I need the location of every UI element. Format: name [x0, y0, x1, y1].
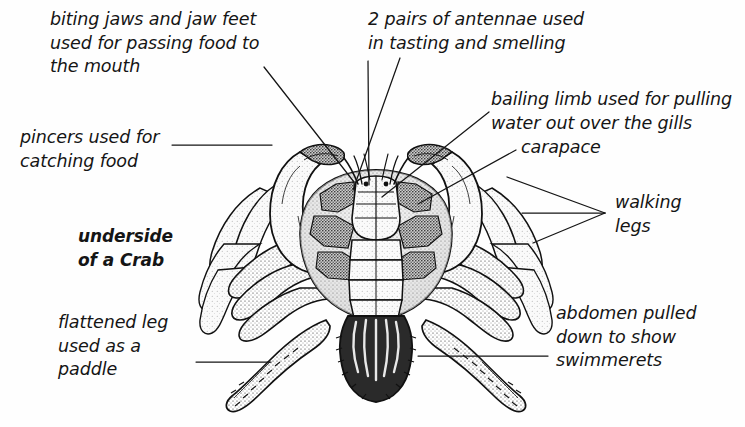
- label-carapace: carapace: [521, 136, 661, 160]
- label-antennae: 2 pairs of antennae used in tasting and …: [368, 8, 608, 55]
- label-bailing-limb: bailing limb used for pulling water out …: [491, 88, 741, 135]
- label-biting-jaws: biting jaws and jaw feet used for passin…: [50, 8, 310, 79]
- label-pincers: pincers used for catching food: [20, 126, 210, 173]
- crab-abdomen-swimmerets: [336, 316, 416, 402]
- crab-body-carapace: [300, 170, 452, 318]
- label-flattened-leg: flattened leg used as a paddle: [58, 311, 218, 382]
- figure-title: underside of a Crab: [78, 224, 228, 272]
- crab-illustration: [196, 140, 556, 418]
- label-abdomen: abdomen pulled down to show swimmerets: [556, 302, 741, 373]
- label-walking-legs: walking legs: [615, 191, 735, 238]
- crab-anatomy-diagram: biting jaws and jaw feet used for passin…: [0, 0, 745, 427]
